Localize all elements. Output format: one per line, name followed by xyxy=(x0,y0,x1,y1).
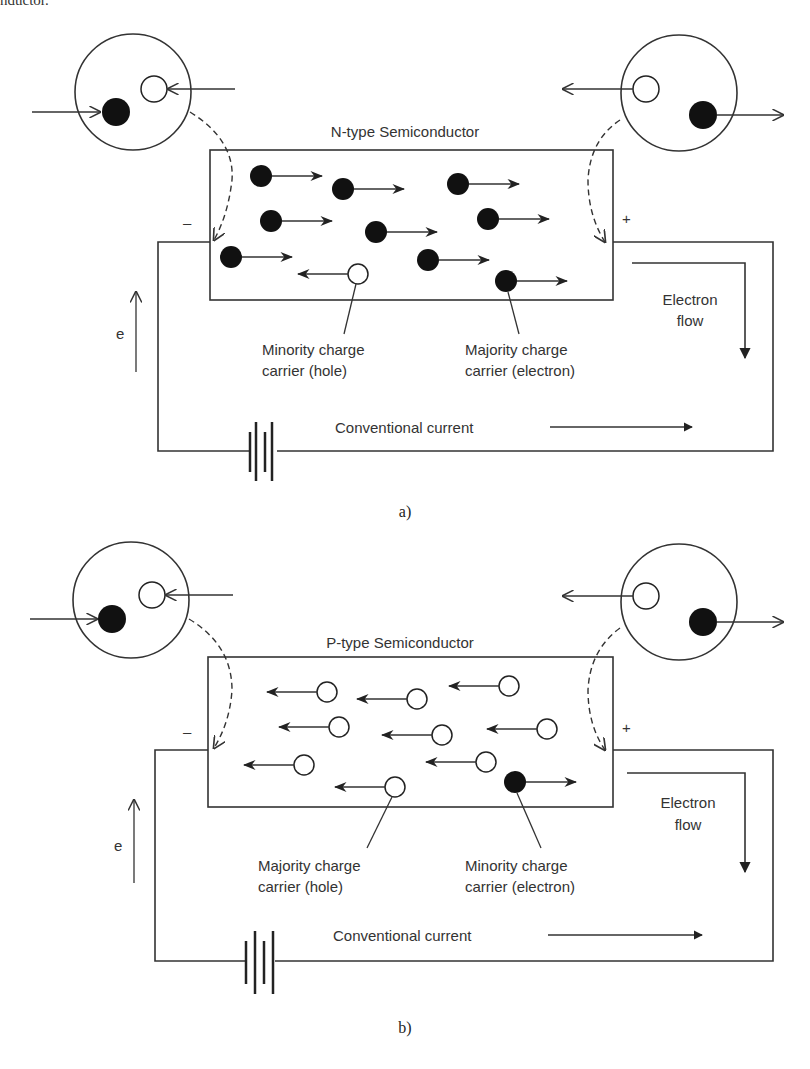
diagram-a-n-type: N-type Semiconductor Minority charge car… xyxy=(32,34,783,521)
callout-b-left-line2: carrier (hole) xyxy=(258,878,343,895)
callout-a-left-line1: Minority charge xyxy=(262,341,365,358)
e-label-a: e xyxy=(116,325,124,342)
electron-flow-label-a1: Electron xyxy=(662,291,717,308)
plus-sign: + xyxy=(622,719,631,736)
atom-contact-icon xyxy=(32,34,235,150)
plus-sign: + xyxy=(622,210,631,227)
minus-sign: – xyxy=(183,214,192,231)
electron-flow-label-b1: Electron xyxy=(660,794,715,811)
electron-flow-label-b2: flow xyxy=(675,816,702,833)
majority-carriers-electrons xyxy=(220,165,567,292)
callout-a-right-line1: Majority charge xyxy=(465,341,568,358)
atom-contact-icon xyxy=(563,35,783,151)
electron-flow-arrow xyxy=(632,263,745,358)
callout-a-right-line2: carrier (electron) xyxy=(465,362,575,379)
minority-carrier-electron xyxy=(504,771,576,793)
caption-a: a) xyxy=(399,503,411,521)
diagram-a-title: N-type Semiconductor xyxy=(331,123,479,140)
conventional-current-label-b: Conventional current xyxy=(333,927,472,944)
callout-b-right-line2: carrier (electron) xyxy=(465,878,575,895)
minority-carrier-hole xyxy=(298,264,368,284)
electron-flow-label-a2: flow xyxy=(677,312,704,329)
callout-b-right-line1: Minority charge xyxy=(465,857,568,874)
circuit-wire-left xyxy=(155,750,246,961)
battery-icon xyxy=(250,422,272,481)
conventional-current-label-a: Conventional current xyxy=(335,419,474,436)
callout-a-left-line2: carrier (hole) xyxy=(262,362,347,379)
atom-contact-icon xyxy=(563,544,783,660)
atom-contact-icon xyxy=(30,542,233,658)
diagram-b-title: P-type Semiconductor xyxy=(326,634,474,651)
minus-sign: – xyxy=(183,723,192,740)
e-label-b: e xyxy=(114,837,122,854)
callout-b-left-line1: Majority charge xyxy=(258,857,361,874)
semiconductor-diagrams: N-type Semiconductor Minority charge car… xyxy=(0,0,810,1069)
circuit-wire-left xyxy=(158,242,250,451)
battery-icon xyxy=(246,931,273,994)
caption-b: b) xyxy=(398,1019,411,1037)
diagram-b-p-type: P-type Semiconductor Majority charge car… xyxy=(30,542,783,1037)
